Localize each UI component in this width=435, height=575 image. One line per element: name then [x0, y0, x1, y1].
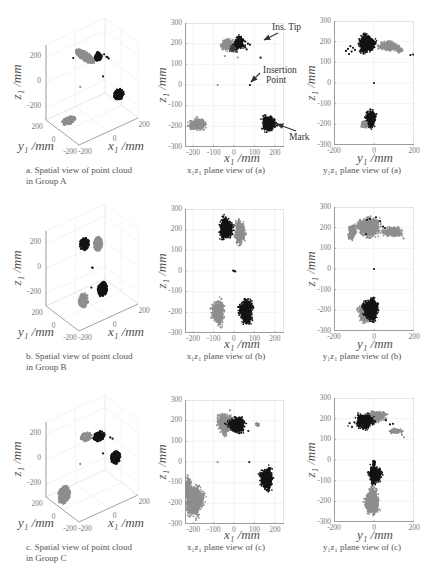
z-axis-label: z₁ /mm — [155, 67, 169, 102]
tick-label: -200 — [78, 148, 92, 156]
xz-plane-canvas — [185, 400, 284, 524]
tick-label: 0 — [37, 263, 41, 271]
tick-label: 0 — [37, 77, 41, 85]
y-axis-label: y₁ /mm — [18, 516, 54, 530]
tick-label: 300 — [320, 17, 331, 25]
xz-plane-canvas — [185, 209, 284, 333]
caption-xz-plane-c: x₁z₁ plane view of (c) — [187, 542, 265, 553]
tick-label: 300 — [320, 394, 331, 402]
tick-label: 200 — [320, 38, 331, 46]
tick-label: 200 — [138, 121, 149, 129]
z-axis-label: z₁ /mm — [304, 442, 318, 477]
z-axis-label: z₁ /mm — [10, 441, 24, 476]
x-axis-label: x₁ /mm — [224, 528, 260, 542]
annotation-insertion-point-line1: Insertion — [263, 65, 297, 75]
tick-label: -200 — [27, 479, 41, 487]
z-axis-label: z₁ /mm — [10, 64, 24, 99]
tick-label: -300 — [317, 327, 331, 335]
z-axis-label: z₁ /mm — [155, 253, 169, 288]
tick-label: -200 — [168, 499, 182, 507]
figure-row-group-a: -2000200-2000200-2000200 y₁ /mm x₁ /mm z… — [0, 0, 435, 190]
tick-label: 200 — [320, 415, 331, 423]
caption-line: b. Spatial view of point cloud — [26, 351, 132, 362]
yz-plane-canvas — [334, 207, 414, 331]
tick-label: -100 — [168, 478, 182, 486]
tick-label: 200 — [320, 224, 331, 232]
tick-label: -100 — [207, 526, 221, 534]
tick-label: -100 — [168, 101, 182, 109]
tick-label: -100 — [207, 335, 221, 343]
annotation-insertion-point-line2: Point — [266, 75, 286, 85]
caption-line: a. Spatial view of point cloud — [26, 165, 132, 176]
yz-plane-plot-b: -20002003002001000-100-200-300 — [334, 207, 414, 331]
x-axis-label: x₁ /mm — [224, 151, 260, 165]
tick-label: 300 — [171, 205, 182, 213]
z-axis-label: z₁ /mm — [304, 65, 318, 100]
tick-label: 200 — [408, 147, 419, 155]
xz-plane-plot-b: -200-10001002003002001000-100-200-300 — [185, 209, 284, 333]
x-axis-label: x₁ /mm — [108, 139, 144, 153]
figure-row-group-b: -2000200-2000200-2000200 y₁ /mm x₁ /mm z… — [0, 186, 435, 376]
tick-label: 200 — [171, 39, 182, 47]
tick-label: -300 — [168, 143, 182, 151]
yz-plane-plot-c: -20002003002001000-100-200-300 — [334, 398, 414, 522]
y-axis-label: y₁ /mm — [357, 337, 393, 351]
tick-label: 200 — [269, 149, 280, 157]
z-axis-label: z₁ /mm — [10, 250, 24, 285]
annotation-mark: Mark — [289, 132, 310, 142]
tick-label: 200 — [171, 416, 182, 424]
caption-xz-plane-b: x₁z₁ plane view of (b) — [187, 351, 266, 362]
caption-yz-plane-c: y₁z₁ plane view of (c) — [323, 542, 401, 553]
tick-label: 100 — [320, 58, 331, 66]
tick-label: -200 — [78, 525, 92, 533]
xz-plane-plot-c: -200-10001002003002001000-100-200-300 — [185, 400, 284, 524]
tick-label: 0 — [37, 454, 41, 462]
tick-label: 200 — [31, 500, 42, 508]
tick-label: 100 — [171, 437, 182, 445]
tick-label: 0 — [178, 267, 182, 275]
tick-label: -200 — [186, 149, 200, 157]
tick-label: -200 — [317, 120, 331, 128]
figure-point-cloud-views: -2000200-2000200-2000200 y₁ /mm x₁ /mm z… — [0, 0, 435, 575]
caption-line: in Group C — [26, 553, 132, 564]
tick-label: -200 — [63, 148, 77, 156]
tick-label: 200 — [408, 524, 419, 532]
tick-label: -100 — [207, 149, 221, 157]
tick-label: -200 — [186, 335, 200, 343]
tick-label: 100 — [171, 60, 182, 68]
caption-line: c. Spatial view of point cloud — [26, 542, 132, 553]
tick-label: 0 — [178, 458, 182, 466]
tick-label: 200 — [30, 429, 41, 437]
tick-label: 200 — [171, 225, 182, 233]
tick-label: 0 — [327, 79, 331, 87]
tick-label: 100 — [171, 246, 182, 254]
caption-yz-plane-a: y₁z₁ plane view of (a) — [323, 165, 401, 176]
tick-label: -200 — [317, 306, 331, 314]
tick-label: 300 — [171, 396, 182, 404]
tick-label: 200 — [31, 123, 42, 131]
yz-plane-canvas — [334, 398, 414, 522]
y-axis-label: y₁ /mm — [357, 528, 393, 542]
tick-label: -100 — [317, 477, 331, 485]
tick-label: -200 — [63, 334, 77, 342]
tick-label: 300 — [320, 203, 331, 211]
tick-label: -200 — [27, 288, 41, 296]
caption-spatial-view-c: c. Spatial view of point cloud in Group … — [26, 542, 132, 564]
tick-label: -300 — [168, 329, 182, 337]
tick-label: 0 — [178, 81, 182, 89]
tick-label: -200 — [168, 308, 182, 316]
tick-label: -200 — [317, 497, 331, 505]
tick-label: 200 — [31, 309, 42, 317]
yz-plane-canvas — [334, 21, 414, 145]
tick-label: -300 — [317, 141, 331, 149]
tick-label: -100 — [168, 287, 182, 295]
tick-label: 200 — [408, 333, 419, 341]
tick-label: 200 — [269, 526, 280, 534]
x-axis-label: x₁ /mm — [224, 337, 260, 351]
tick-label: -200 — [63, 525, 77, 533]
tick-label: -300 — [317, 518, 331, 526]
tick-label: 0 — [327, 456, 331, 464]
tick-label: 200 — [269, 335, 280, 343]
tick-label: -200 — [186, 526, 200, 534]
tick-label: 100 — [320, 435, 331, 443]
